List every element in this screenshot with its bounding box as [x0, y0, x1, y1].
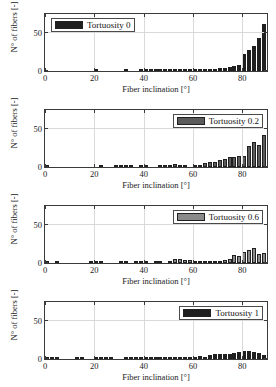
x-axis-label: Fiber inclination [°] [44, 84, 268, 94]
x-tick-label: 0 [43, 265, 47, 275]
plot-area-2: 0 50 020406080 Tortuosity 0.6 [44, 205, 268, 264]
histogram-bar [178, 69, 182, 71]
x-axis-label: Fiber inclination [°] [44, 180, 268, 190]
histogram-bar [129, 165, 133, 167]
x-tick-mark [242, 68, 243, 71]
x-tick-mark [193, 164, 194, 167]
x-tick-mark [193, 302, 194, 305]
histogram-bar [232, 157, 236, 167]
histogram-bar [99, 357, 103, 359]
histogram-bar [158, 165, 162, 167]
histogram-bar [223, 260, 227, 263]
histogram-bar [257, 38, 261, 71]
histogram-bar [89, 261, 93, 263]
x-tick-mark [242, 260, 243, 263]
y-gridline [45, 32, 267, 33]
histogram-bar [198, 69, 202, 71]
histogram-bar [213, 261, 217, 263]
x-gridline [144, 206, 145, 263]
histogram-bar [208, 69, 212, 71]
histogram-bar [168, 69, 172, 71]
legend-tortuosity-0: Tortuosity 0 [51, 18, 135, 32]
histogram-bar [158, 357, 162, 359]
x-tick-mark [94, 260, 95, 263]
x-tick-mark [94, 14, 95, 17]
histogram-bar [163, 69, 167, 71]
y-tick-label-0: 0 [38, 162, 42, 172]
histogram-bar [139, 69, 143, 71]
legend-label: Tortuosity 0.6 [209, 213, 259, 222]
histogram-bar [55, 261, 59, 263]
x-tick-label: 20 [90, 73, 99, 83]
x-gridline [242, 14, 243, 71]
histogram-bar [124, 165, 128, 167]
y-tick-mark [264, 128, 267, 129]
histogram-bar [188, 357, 192, 359]
x-tick-mark [144, 110, 145, 113]
histogram-bar [183, 357, 187, 359]
legend-tortuosity-06: Tortuosity 0.6 [173, 210, 263, 224]
x-axis-label: Fiber inclination [°] [44, 276, 268, 286]
y-tick-mark [45, 32, 48, 33]
histogram-bar [124, 261, 128, 263]
histogram-bar [119, 165, 123, 167]
x-tick-mark [242, 110, 243, 113]
y-tick-label-50: 50 [34, 28, 43, 38]
histogram-bar [213, 354, 217, 359]
panel-tortuosity-0: N° of fibers [-] 0 50 020406080 Tortuosi… [0, 0, 276, 96]
x-tick-mark [45, 110, 46, 113]
histogram-bar [178, 259, 182, 263]
histogram-bar [203, 163, 207, 167]
histogram-bar [178, 357, 182, 359]
x-tick-label: 80 [238, 265, 247, 275]
histogram-bar [213, 69, 217, 71]
panel-tortuosity-1: N° of fibers [-] 0 50 020406080 Tortuosi… [0, 288, 276, 387]
y-tick-mark [45, 166, 48, 167]
x-tick-mark [144, 206, 145, 209]
figure-fiber-inclination-histograms: N° of fibers [-] 0 50 020406080 Tortuosi… [0, 0, 276, 387]
x-tick-label: 40 [139, 361, 148, 371]
y-axis-label: N° of fibers [-] [9, 189, 19, 249]
y-tick-label-0: 0 [38, 354, 42, 364]
y-tick-mark [264, 70, 267, 71]
histogram-bar [218, 160, 222, 167]
histogram-bar [134, 357, 138, 359]
x-tick-mark [144, 14, 145, 17]
histogram-bar [208, 355, 212, 359]
x-tick-mark [242, 356, 243, 359]
x-tick-label: 60 [189, 169, 198, 179]
y-tick-mark [45, 70, 48, 71]
y-tick-mark [45, 262, 48, 263]
x-tick-label: 0 [43, 361, 47, 371]
histogram-bar [124, 357, 128, 359]
x-tick-mark [144, 164, 145, 167]
histogram-bar [262, 135, 266, 167]
x-tick-mark [144, 302, 145, 305]
legend-swatch-icon [183, 309, 211, 317]
y-gridline [45, 224, 267, 225]
histogram-bar [168, 261, 172, 263]
x-tick-label: 60 [189, 361, 198, 371]
histogram-bar [237, 352, 241, 359]
histogram-bar [247, 351, 251, 359]
y-tick-mark [264, 320, 267, 321]
x-tick-label: 0 [43, 169, 47, 179]
x-tick-mark [94, 68, 95, 71]
histogram-bar [247, 50, 251, 71]
x-tick-mark [242, 14, 243, 17]
histogram-bar [149, 69, 153, 71]
histogram-bar [218, 354, 222, 359]
histogram-bar [129, 357, 133, 359]
y-tick-label-0: 0 [38, 66, 42, 76]
histogram-bar [232, 255, 236, 263]
y-tick-label-50: 50 [34, 316, 43, 326]
x-tick-label: 80 [238, 169, 247, 179]
y-axis-label: N° of fibers [-] [9, 0, 19, 57]
histogram-bar [262, 24, 266, 71]
x-tick-mark [193, 356, 194, 359]
legend-swatch-icon [177, 117, 205, 125]
histogram-bar [99, 165, 103, 167]
y-tick-label-50: 50 [34, 220, 43, 230]
histogram-bar [257, 145, 261, 167]
x-tick-mark [94, 110, 95, 113]
